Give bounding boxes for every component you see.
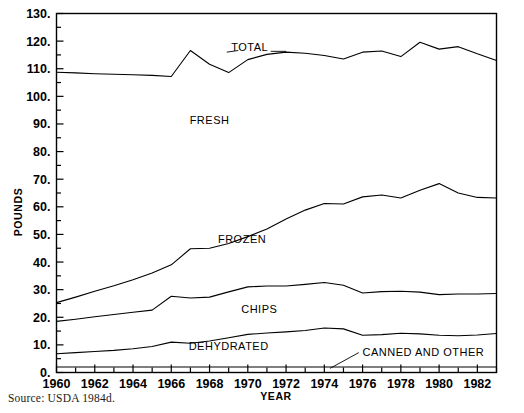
x-tick-label: 1982 <box>463 377 491 391</box>
annotation-canned-and-other: CANNED AND OTHER <box>363 346 485 358</box>
y-tick-label: 70. <box>33 173 50 187</box>
y-tick-label: 120. <box>26 35 50 49</box>
y-axis-title: POUNDS <box>12 188 24 237</box>
annotation-fresh: FRESH <box>190 114 230 126</box>
x-axis-ticks <box>57 365 497 373</box>
y-tick-label: 50. <box>33 228 50 242</box>
x-tick-label: 1966 <box>157 377 185 391</box>
x-tick-label: 1978 <box>387 377 415 391</box>
y-axis-ticks <box>57 14 64 373</box>
series-line-frozen <box>57 184 497 303</box>
data-series-lines <box>57 42 497 367</box>
x-tick-label: 1962 <box>81 377 109 391</box>
x-tick-label: 1974 <box>310 377 338 391</box>
annotation-chips: CHIPS <box>241 303 277 315</box>
plot-frame <box>57 14 497 373</box>
series-annotations: TOTALFRESHFROZENCHIPSDEHYDRATEDCANNED AN… <box>189 41 485 358</box>
y-tick-label: 110. <box>27 62 51 76</box>
y-tick-label: 80. <box>33 145 50 159</box>
x-tick-label: 1980 <box>425 377 453 391</box>
series-line-chips <box>57 282 497 321</box>
x-axis-tick-labels: 1960196219641966196819701972197419761978… <box>43 377 492 391</box>
y-tick-label: 60. <box>33 200 50 214</box>
x-tick-label: 1964 <box>119 377 147 391</box>
x-tick-label: 1976 <box>349 377 377 391</box>
x-tick-label: 1970 <box>234 377 262 391</box>
x-tick-label: 1960 <box>43 377 71 391</box>
y-tick-label: 20. <box>33 311 50 325</box>
annotation-dehydrated: DEHYDRATED <box>189 340 269 352</box>
x-axis-title: YEAR <box>260 390 292 402</box>
canned-and-other-leader-line <box>330 353 359 369</box>
y-tick-label: 90. <box>33 117 50 131</box>
series-line-fresh <box>57 42 497 76</box>
source-note: Source: USDA 1984d. <box>8 392 115 404</box>
annotation-frozen: FROZEN <box>218 233 266 245</box>
annotation-total: TOTAL <box>231 41 268 53</box>
y-tick-label: 100. <box>26 90 50 104</box>
y-tick-label: 10. <box>33 338 50 352</box>
x-tick-label: 1972 <box>272 377 300 391</box>
y-tick-label: 130. <box>26 7 50 21</box>
potato-consumption-figure: 0.10.20.30.40.50.60.70.80.90.100.110.120… <box>0 0 524 413</box>
chart-canvas: 0.10.20.30.40.50.60.70.80.90.100.110.120… <box>0 0 524 413</box>
y-tick-label: 40. <box>33 256 50 270</box>
y-tick-label: 30. <box>33 283 50 297</box>
x-tick-label: 1968 <box>196 377 224 391</box>
y-axis-tick-labels: 0.10.20.30.40.50.60.70.80.90.100.110.120… <box>26 7 50 380</box>
